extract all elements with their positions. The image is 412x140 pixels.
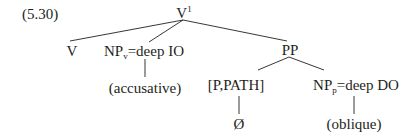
- node-np-p: NPp=deep DO: [313, 77, 399, 94]
- edge-v1-pp: [183, 20, 287, 41]
- node-v-bar-label: V: [176, 5, 187, 21]
- node-np-p-label: NP: [313, 77, 332, 93]
- node-np-v-suffix: =deep IO: [128, 43, 184, 59]
- node-v: V: [67, 43, 78, 60]
- node-accusative: (accusative): [109, 80, 181, 97]
- node-null: Ø: [234, 116, 245, 133]
- node-p-path: [P,PATH]: [208, 77, 265, 94]
- node-v-bar-superscript: 1: [187, 4, 192, 14]
- node-pp: PP: [282, 42, 299, 59]
- node-v-bar: V1: [176, 5, 191, 22]
- node-np-v: NPv=deep IO: [104, 43, 184, 60]
- node-np-v-label: NP: [104, 43, 123, 59]
- node-np-p-suffix: =deep DO: [337, 77, 399, 93]
- node-oblique: (oblique): [327, 116, 382, 133]
